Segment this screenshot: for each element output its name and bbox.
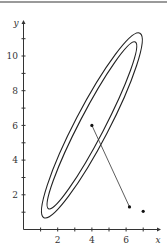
x-tick-label-6: 6 bbox=[123, 235, 129, 245]
chart-canvas: 2 4 6 x 2 4 6 8 10 y bbox=[0, 0, 167, 252]
x-tick-label-2: 2 bbox=[55, 235, 61, 245]
y-tick-label-10: 10 bbox=[7, 51, 19, 61]
y-axis-arrow-icon bbox=[22, 20, 26, 24]
x-axis-label: x bbox=[155, 235, 160, 245]
y-tick-label-8: 8 bbox=[12, 86, 18, 96]
radius-segment bbox=[92, 125, 130, 206]
outer-point bbox=[142, 210, 145, 213]
y-tick-label-6: 6 bbox=[12, 121, 18, 131]
y-tick-label-2: 2 bbox=[12, 190, 18, 200]
x-axis-arrow-icon bbox=[157, 228, 161, 232]
x-tick-label-4: 4 bbox=[89, 235, 95, 245]
center-point bbox=[90, 124, 93, 127]
inner-point bbox=[128, 205, 131, 208]
y-tick-label-4: 4 bbox=[12, 155, 18, 165]
y-axis-label: y bbox=[12, 18, 19, 28]
